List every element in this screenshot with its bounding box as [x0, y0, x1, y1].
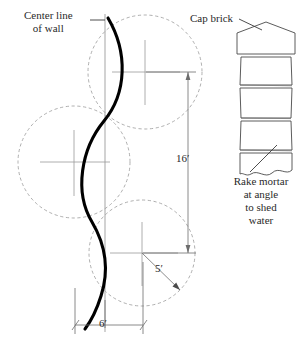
brick-course-2	[240, 88, 292, 118]
label-cap-brick: Cap brick	[190, 12, 233, 24]
centre-mark-middle	[40, 130, 110, 196]
serpentine-wall-line	[82, 18, 122, 329]
brick-elevation-detail	[237, 22, 295, 175]
construction-circles	[18, 15, 202, 306]
dimension-6ft	[72, 262, 147, 334]
label-rake-mortar: Rake mortar at angle to shed water	[219, 175, 303, 227]
brick-course-1	[240, 57, 292, 85]
technical-drawing-canvas: Center line of wall Cap brick Rake morta…	[0, 0, 305, 344]
centre-mark-bottom	[110, 222, 178, 286]
label-center-line-of-wall: Center line of wall	[24, 9, 73, 34]
dimension-label-width: 6′	[99, 317, 107, 329]
brick-course-3	[240, 121, 292, 150]
dimension-label-radius: 5′	[155, 262, 163, 274]
dimension-label-height: 16′	[176, 152, 189, 164]
drawing-svg	[0, 0, 305, 344]
cap-brick	[237, 22, 295, 54]
rake-mortar-leader	[250, 145, 277, 172]
centre-marks	[40, 40, 180, 286]
